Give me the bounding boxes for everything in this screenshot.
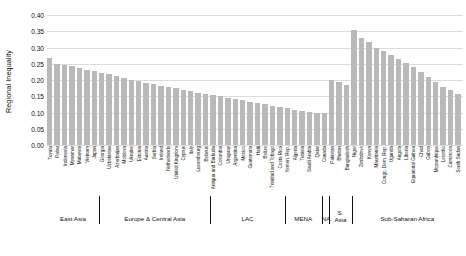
region-group-label: East Asia <box>47 216 99 223</box>
x-tick-label: Equatorial Guinea <box>411 146 418 194</box>
bar <box>92 71 97 145</box>
x-tick-label: Cyprus <box>181 146 188 194</box>
x-tick-label: Qatar <box>314 146 321 194</box>
bar <box>99 73 104 145</box>
x-tick-label: Malaysia <box>77 146 84 194</box>
bar <box>307 112 312 145</box>
x-tick-label-text: Kenya <box>368 146 373 159</box>
x-tick-label-text: Liberia <box>405 146 410 160</box>
x-tick-label: Zimbabwe <box>359 146 366 194</box>
x-tick-label-text: Pakistan <box>330 146 335 164</box>
x-tick-label-text: Mauritania <box>375 146 380 167</box>
x-tick-label: Antigua and Barbuda <box>210 146 217 194</box>
region-group-label: MENA <box>285 216 322 223</box>
bar <box>388 55 393 145</box>
x-tick-label-text: Zimbabwe <box>360 146 365 167</box>
bar <box>426 77 431 145</box>
y-tick-label: 0.30 <box>10 44 44 51</box>
x-tick-label: Pakistan <box>329 146 336 194</box>
bar <box>151 84 156 145</box>
bar <box>181 90 186 145</box>
x-tick-label-text: Lesotho <box>442 146 447 162</box>
bar <box>433 82 438 145</box>
bar <box>121 78 126 145</box>
x-tick-label-text: Congo, Dem. Rep. <box>382 146 387 184</box>
x-tick-label: Costa Rica <box>277 146 284 194</box>
x-tick-label: Gabon <box>426 146 433 194</box>
x-tick-label: Myanmar <box>69 146 76 194</box>
y-tick-label: 0.05 <box>10 125 44 132</box>
x-tick-label: Moldova <box>121 146 128 194</box>
bar <box>270 106 275 145</box>
x-tick-label: Bangladesh <box>344 146 351 194</box>
x-tick-label-text: Saudi Arabia <box>308 146 313 172</box>
x-tick-label: Guatemala <box>247 146 254 194</box>
bar <box>344 85 349 145</box>
bar <box>195 93 200 145</box>
region-group-label: LAC <box>210 216 284 223</box>
x-tick-label: Azerbaijan <box>114 146 121 194</box>
x-tick-label-text: Belize <box>264 146 269 159</box>
x-tick-label: Saudi Arabia <box>307 146 314 194</box>
x-tick-label-text: Algeria <box>293 146 298 160</box>
x-tick-label: Austria <box>143 146 150 194</box>
y-tick-label: 0.40 <box>10 12 44 19</box>
x-tick-label-text: Malaysia <box>78 146 83 164</box>
x-tick-label: Palau <box>54 146 61 194</box>
x-tick-label: Chad <box>418 146 425 194</box>
x-tick-label-text: Bhutan <box>338 146 343 161</box>
bar <box>210 95 215 145</box>
bar <box>247 102 252 145</box>
x-tick-label: Uzbekistan <box>106 146 113 194</box>
x-tick-label-text: Netherlands <box>167 146 172 171</box>
x-tick-label: Yemen, Rep. <box>285 146 292 194</box>
regional-inequality-chart: Regional Inequality 0.000.050.100.150.20… <box>0 0 466 256</box>
y-axis-tick-labels: 0.000.050.100.150.200.250.300.350.40 <box>8 0 44 256</box>
bar <box>381 51 386 145</box>
x-tick-label-text: Belarus <box>204 146 209 162</box>
x-tick-label-text: Trinidad and Tobago <box>271 146 276 188</box>
y-tick-label: 0.15 <box>10 93 44 100</box>
x-tick-label-text: Uzbekistan <box>108 146 113 169</box>
x-axis-tick-labels: TuvaluPalauIndonesiaMyanmarMalaysiaVietn… <box>47 146 463 194</box>
x-tick-label-text: Costa Rica <box>278 146 283 168</box>
x-tick-label: Japan <box>92 146 99 194</box>
x-tick-label: Uganda <box>388 146 395 194</box>
x-tick-label: Mozambique <box>433 146 440 194</box>
x-tick-label: Angola <box>396 146 403 194</box>
x-tick-label: South Sudan <box>455 146 462 194</box>
bar <box>329 80 334 145</box>
bar <box>129 80 134 145</box>
bar <box>336 82 341 145</box>
x-tick-label-text: South Sudan <box>457 146 462 173</box>
x-tick-label-text: Colombia <box>219 146 224 165</box>
x-tick-label-text: Luxembourg <box>197 146 202 172</box>
x-tick-label-text: Canada <box>323 146 328 162</box>
bar <box>411 67 416 145</box>
bar <box>62 65 67 145</box>
x-tick-label: United Kingdom <box>173 146 180 194</box>
bar <box>143 83 148 145</box>
x-tick-label: Mexico <box>240 146 247 194</box>
x-tick-label-text: United Kingdom <box>175 146 180 179</box>
bar <box>233 99 238 145</box>
bar <box>262 104 267 145</box>
x-tick-label-text: Japan <box>93 146 98 159</box>
y-tick-label: 0.35 <box>10 28 44 35</box>
bar <box>396 59 401 145</box>
x-tick-label: Congo, Dem. Rep. <box>381 146 388 194</box>
x-tick-label-text: Ireland <box>160 146 165 160</box>
x-tick-label-text: Serbia <box>152 146 157 159</box>
x-tick-label-text: Antigua and Barbuda <box>212 146 217 189</box>
x-tick-label: Belarus <box>203 146 210 194</box>
bar <box>188 91 193 145</box>
x-tick-label: Belize <box>262 146 269 194</box>
x-tick-label-text: Austria <box>145 146 150 160</box>
bar <box>166 87 171 145</box>
bar <box>440 87 445 146</box>
x-tick-label: Italy <box>188 146 195 194</box>
x-tick-label: Ukraine <box>129 146 136 194</box>
bar <box>136 81 141 145</box>
x-tick-label: Bhutan <box>336 146 343 194</box>
x-tick-label-text: Mexico <box>241 146 246 161</box>
